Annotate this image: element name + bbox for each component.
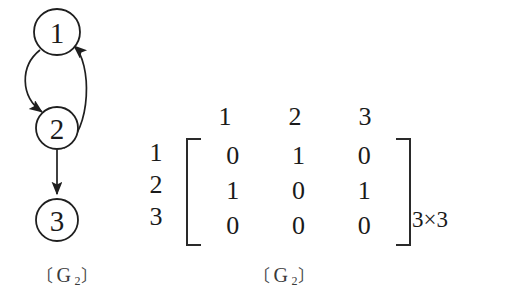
graph-panel: 1 2 3 [0, 0, 150, 307]
matrix-caption-name: G [274, 264, 289, 286]
graph-caption: 〔G2〕 [36, 262, 98, 287]
matrix-cell-r2c1: 1 [200, 175, 266, 207]
matrix-cell-r3c1: 0 [200, 210, 266, 242]
figure-root: 1 2 3 〔G2〕 1 2 3 1 2 3 0 [0, 0, 519, 307]
matrix-row-labels: 1 2 3 [140, 137, 172, 233]
matrix-row-label-2: 2 [140, 169, 172, 201]
matrix-cell-r2c2: 0 [266, 175, 332, 207]
graph-caption-name: G [57, 264, 72, 286]
matrix-caption-open-bracket: 〔 [253, 267, 271, 286]
matrix-column-headers: 1 2 3 [140, 100, 420, 136]
matrix-cell-r1c1: 0 [200, 140, 266, 172]
adjacency-matrix-panel: 1 2 3 1 2 3 0 1 0 1 0 1 [140, 100, 519, 260]
table-row: 1 0 1 [200, 175, 397, 207]
graph-node-1-label: 1 [50, 17, 65, 49]
table-row: 0 0 0 [200, 210, 397, 242]
matrix-column-header-1: 1 [210, 102, 240, 132]
matrix-caption-close-bracket: 〕 [298, 267, 316, 286]
matrix-caption: 〔G2〕 [253, 262, 315, 287]
graph-caption-subscript: 2 [74, 274, 81, 288]
matrix-row-label-3: 3 [140, 201, 172, 233]
graph-caption-open-bracket: 〔 [36, 267, 54, 286]
matrix-cell-r1c3: 0 [331, 140, 397, 172]
matrix-column-header-3: 3 [350, 102, 380, 132]
matrix-cell-r2c3: 1 [331, 175, 397, 207]
matrix-column-header-2: 2 [280, 102, 310, 132]
graph-caption-close-bracket: 〕 [81, 267, 99, 286]
matrix-left-bracket [186, 138, 201, 246]
graph-node-2-label: 2 [50, 113, 65, 145]
matrix-cell-r3c2: 0 [266, 210, 332, 242]
graph-node-3-label: 3 [50, 205, 65, 237]
matrix-bracket-wrapper: 0 1 0 1 0 1 0 0 0 [186, 138, 411, 242]
matrix-grid: 0 1 0 1 0 1 0 0 0 [200, 138, 397, 242]
matrix-cell-r3c3: 0 [331, 210, 397, 242]
matrix-row-label-1: 1 [140, 137, 172, 169]
table-row: 0 1 0 [200, 140, 397, 172]
directed-graph-diagram: 1 2 3 [0, 0, 150, 260]
matrix-cell-r1c2: 1 [266, 140, 332, 172]
matrix-right-bracket [396, 138, 411, 246]
matrix-caption-subscript: 2 [291, 274, 298, 288]
matrix-dimension-label: 3×3 [412, 207, 448, 233]
edge-1-to-2 [25, 50, 42, 112]
